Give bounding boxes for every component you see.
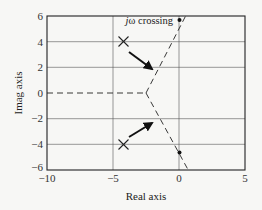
y-tick-4: 4	[38, 36, 44, 48]
y-tick-labels: 6 4 2 0 −2 −4 −6	[31, 10, 43, 173]
upper-asymptote-line	[146, 16, 186, 93]
x-axis-label: Real axis	[126, 190, 167, 202]
jw-crossing-annotation: jω crossing	[124, 15, 174, 26]
arrow-lower-branch-icon	[129, 123, 152, 137]
y-tick-minus4: −4	[31, 138, 43, 150]
y-tick-6: 6	[38, 10, 44, 22]
y-tick-0: 0	[38, 87, 44, 99]
y-tick-2: 2	[38, 61, 44, 73]
x-tick-labels: −10 −5 0 5	[38, 172, 248, 184]
arrow-upper-branch-icon	[129, 52, 152, 69]
locus-lines	[47, 16, 188, 170]
root-locus-chart: jω crossing 6 4 2 0 −2 −4 −6 −10 −5 0 5 …	[0, 0, 262, 210]
x-tick-minus10: −10	[38, 172, 56, 184]
x-tick-0: 0	[176, 172, 182, 184]
jw-crossing-upper-dot	[178, 18, 182, 22]
x-tick-minus5: −5	[107, 172, 119, 184]
jw-crossing-lower-dot	[178, 151, 182, 155]
x-tick-5: 5	[242, 172, 248, 184]
lower-asymptote-line	[146, 93, 188, 170]
y-axis-label: Imag axis	[12, 71, 24, 114]
y-tick-minus2: −2	[31, 112, 43, 124]
